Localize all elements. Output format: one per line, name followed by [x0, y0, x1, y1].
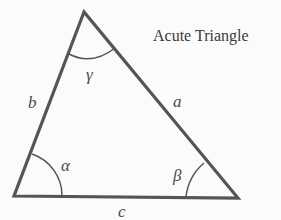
- label-alpha: α: [61, 156, 71, 175]
- label-side-a: a: [173, 92, 182, 111]
- diagram-canvas: γ α β b a c Acute Triangle: [0, 0, 281, 220]
- angle-arc-alpha: [32, 154, 62, 196]
- label-gamma: γ: [86, 65, 94, 84]
- label-side-b: b: [28, 93, 37, 112]
- angle-arc-gamma: [69, 48, 115, 59]
- label-side-c: c: [118, 202, 126, 220]
- triangle-figure: γ α β b a c Acute Triangle: [0, 0, 281, 220]
- angle-arc-beta: [186, 163, 204, 197]
- diagram-title: Acute Triangle: [153, 27, 249, 45]
- label-beta: β: [172, 166, 182, 185]
